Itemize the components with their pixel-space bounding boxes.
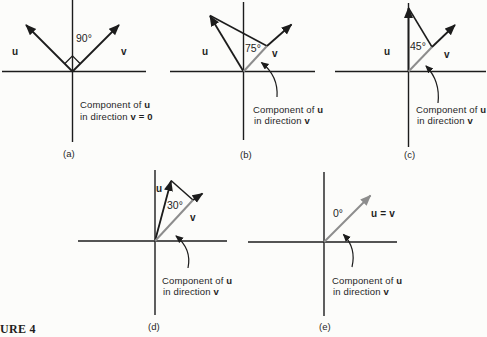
caption-text: Component of [253, 104, 317, 115]
angle-label-e: 0° [333, 208, 343, 219]
caption-bold: v [214, 286, 219, 297]
projection-line [171, 181, 193, 201]
figure-number-label: URE 4 [0, 323, 36, 335]
caption-text: Component of [162, 275, 226, 286]
caption-c-line1: Component of u [416, 105, 486, 115]
vector-v [193, 194, 203, 201]
caption-a-line2: in direction v = 0 [80, 112, 153, 122]
caption-b-line1: Component of u [253, 105, 323, 115]
vector-u-equals-v [324, 196, 371, 243]
caption-c-line2: in direction v [417, 116, 473, 126]
caption-d-line2: in direction v [163, 287, 219, 297]
angle-label-c: 45° [410, 41, 426, 52]
u-equals-v-label: u = v [371, 209, 395, 219]
caption-text: in direction [80, 111, 131, 122]
caption-text: Component of [332, 275, 396, 286]
caption-text: in direction [417, 115, 468, 126]
caption-text: in direction [333, 286, 384, 297]
caption-bold: u [144, 99, 150, 110]
panel-tag-a: (a) [63, 149, 75, 159]
caption-bold: u [226, 275, 232, 286]
caption-bold: v [305, 115, 310, 126]
v-vector-label-b: v [272, 49, 278, 59]
angle-label-b: 75° [245, 43, 261, 54]
caption-e-line2: in direction v [333, 287, 389, 297]
u-vector-label-c: u [384, 47, 390, 57]
caption-bold: v = 0 [131, 111, 153, 122]
caption-text: in direction [254, 115, 305, 126]
caption-text: in direction [163, 286, 214, 297]
leader-arrow [262, 63, 278, 98]
caption-b-line2: in direction v [254, 116, 310, 126]
caption-text: Component of [416, 104, 480, 115]
caption-d-line1: Component of u [162, 276, 232, 286]
panel-tag-c: (c) [404, 150, 415, 160]
angle-label-d: 30° [167, 200, 183, 211]
angle-label-a: 90° [76, 33, 92, 44]
v-vector-label-d: v [190, 213, 196, 223]
u-vector-label-b: u [202, 47, 208, 57]
panel-tag-e: (e) [319, 322, 331, 332]
vector-u [26, 25, 73, 72]
u-vector-label-d: u [156, 184, 162, 194]
caption-e-line1: Component of u [332, 276, 402, 286]
v-vector-label-a: v [121, 47, 127, 57]
vector-v [432, 25, 455, 47]
figure-4-vector-components: u v 90° Component of u in direction v = … [0, 0, 487, 337]
caption-bold: u [480, 104, 486, 115]
u-vector-label-a: u [12, 47, 18, 57]
caption-bold: v [468, 115, 473, 126]
panel-tag-d: (d) [148, 322, 160, 332]
panel-tag-b: (b) [240, 150, 252, 160]
caption-a-line1: Component of u [80, 100, 150, 110]
v-vector-label-c: v [444, 50, 450, 60]
caption-bold: u [396, 275, 402, 286]
caption-text: Component of [80, 99, 144, 110]
caption-bold: u [317, 104, 323, 115]
vector-v [267, 25, 292, 47]
leader-arrow [344, 235, 354, 268]
caption-bold: v [384, 286, 389, 297]
